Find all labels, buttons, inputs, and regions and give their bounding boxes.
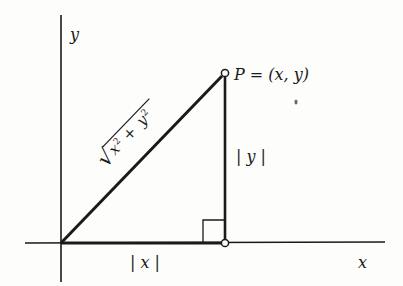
point-p-marker bbox=[221, 69, 228, 76]
ink-speck bbox=[295, 100, 298, 105]
point-p-label: P = (x, y) bbox=[233, 65, 309, 84]
foot-point-marker bbox=[221, 239, 228, 246]
hypotenuse-label: √ x 2 + y 2 bbox=[92, 97, 166, 172]
vertical-leg-label: | y | bbox=[236, 147, 266, 166]
x-axis-label: x bbox=[358, 253, 367, 272]
right-angle-marker bbox=[203, 220, 225, 243]
distance-diagram: y x P = (x, y) | y | | x | √ x 2 + y 2 bbox=[0, 0, 403, 286]
y-axis-label: y bbox=[69, 25, 80, 44]
plus-sign: + bbox=[119, 123, 141, 145]
hypotenuse bbox=[61, 76, 222, 243]
horizontal-leg-label: | x | bbox=[130, 253, 160, 272]
